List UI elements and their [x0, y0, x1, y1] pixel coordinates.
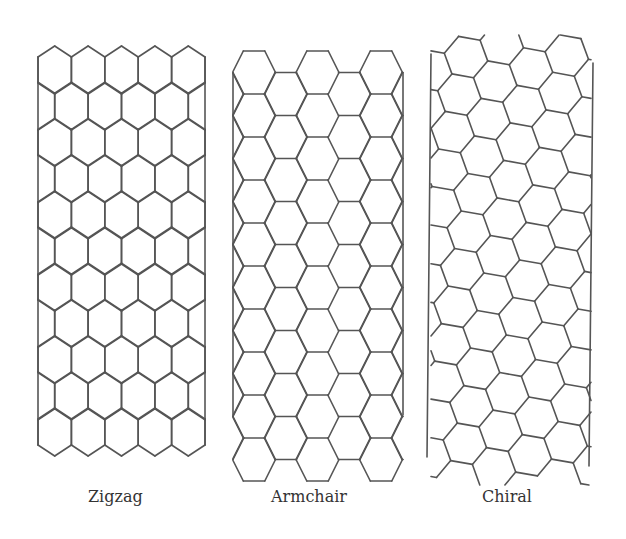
zigzag-nanotube — [38, 46, 205, 456]
armchair-nanotube — [233, 51, 403, 481]
armchair-label: Armchair — [271, 487, 347, 506]
nanotube-diagram — [0, 0, 626, 539]
chiral-nanotube — [427, 35, 593, 485]
chiral-label: Chiral — [482, 487, 532, 506]
zigzag-label: Zigzag — [88, 487, 143, 506]
